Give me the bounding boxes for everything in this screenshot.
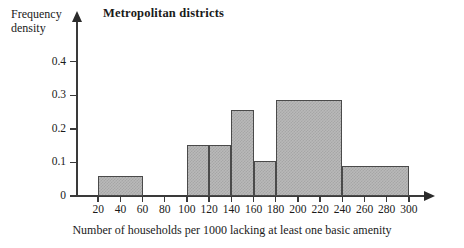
histogram-bar [231, 110, 253, 196]
y-axis-tick-label: 0.4 [26, 56, 66, 68]
x-axis-tick [386, 196, 387, 202]
x-axis-tick [297, 196, 298, 202]
x-axis-tick [253, 196, 254, 202]
x-axis-tick [364, 196, 365, 202]
x-axis-tick [120, 196, 121, 202]
plot-area: 00.10.20.30.4 20406080100120140160180200… [0, 0, 464, 248]
y-axis-tick [70, 128, 77, 129]
y-axis-arrow-icon [72, 11, 82, 22]
histogram-bar [187, 145, 209, 196]
x-axis-arrow-icon [424, 191, 435, 201]
x-axis-tick [186, 196, 187, 202]
x-axis-tick [208, 196, 209, 202]
x-axis-tick [408, 196, 409, 202]
y-axis-tick [70, 162, 77, 163]
y-axis-tick [70, 95, 77, 96]
histogram-bar [276, 100, 343, 196]
histogram-bar [209, 145, 231, 196]
x-axis-tick [319, 196, 320, 202]
x-axis-tick [164, 196, 165, 202]
x-axis-tick-label: 300 [394, 203, 424, 215]
x-axis-tick [142, 196, 143, 202]
histogram-bar [254, 161, 276, 196]
x-axis-tick [231, 196, 232, 202]
x-axis-tick [97, 196, 98, 202]
y-axis-tick-label: 0.1 [26, 156, 66, 168]
y-axis-tick-label: 0.2 [26, 123, 66, 135]
x-axis-tick [342, 196, 343, 202]
y-axis-tick [70, 61, 77, 62]
x-axis-caption: Number of households per 1000 lacking at… [0, 223, 464, 238]
y-axis-tick-label: 0.3 [26, 89, 66, 101]
y-axis-tick-label: 0 [26, 190, 66, 202]
histogram-bar [98, 176, 142, 196]
y-axis-tick [70, 195, 77, 196]
histogram-bar [342, 166, 409, 196]
y-axis-line [76, 20, 78, 197]
x-axis-tick [275, 196, 276, 202]
histogram-figure: Frequency density Metropolitan districts… [0, 0, 464, 248]
